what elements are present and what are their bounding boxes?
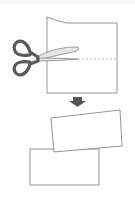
- result-piece-bottom: [30, 149, 99, 185]
- cut-paper-diagram: [0, 0, 135, 198]
- result-piece-top: [51, 110, 122, 152]
- arrow-down-icon: [69, 97, 86, 107]
